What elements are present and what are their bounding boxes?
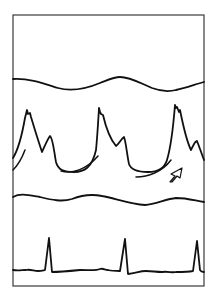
- tracing-diagram: [0, 0, 217, 301]
- respiratory-trace-bottom: [13, 195, 204, 205]
- respiratory-trace-top: [13, 77, 204, 91]
- ecg-trace: [13, 238, 204, 274]
- figure-canvas: [0, 0, 217, 301]
- pressure-waveform: [13, 105, 204, 172]
- arrow-marker-icon: [170, 168, 182, 182]
- pressure-artifact-mid: [61, 156, 98, 172]
